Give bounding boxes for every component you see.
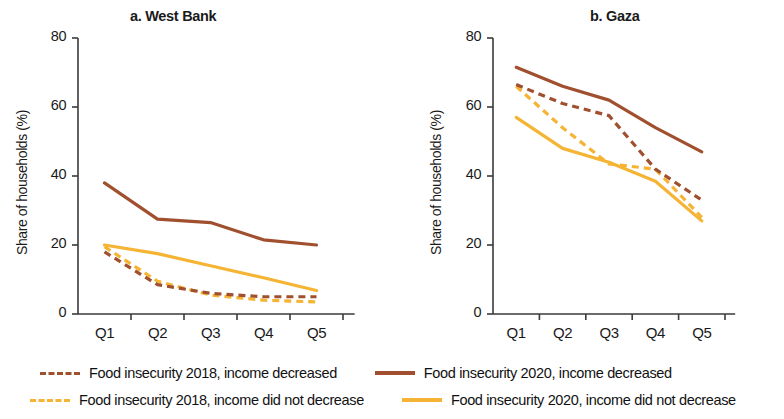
legend-item-2018-not-decreased: Food insecurity 2018, income did not dec… [30,392,364,408]
series-line [105,252,317,297]
series-line [516,117,702,221]
y-tick-label: 80 [445,28,481,44]
legend-swatch-dashed-yellow-icon [30,399,70,402]
x-tick-label: Q3 [585,324,633,341]
series-line [105,247,317,302]
legend-item-2018-decreased: Food insecurity 2018, income decreased [40,365,337,381]
legend-item-2020-not-decreased: Food insecurity 2020, income did not dec… [402,392,736,408]
y-tick-label: 20 [30,235,66,251]
figure-food-insecurity-quintiles: a. West Bank Share of households (%) 020… [0,0,784,419]
legend-swatch-solid-brown-icon [375,371,415,375]
legend-label-2020-decreased: Food insecurity 2020, income decreased [424,365,672,381]
chart-panel-gaza: b. Gaza Share of households (%) 02040608… [420,0,784,352]
y-tick-label: 60 [30,97,66,113]
x-tick-label: Q2 [134,324,182,341]
x-tick-label: Q4 [631,324,679,341]
series-line [105,183,317,245]
x-tick-label: Q1 [492,324,540,341]
legend-label-2020-not-decreased: Food insecurity 2020, income did not dec… [451,392,736,408]
legend-row-decreased: Food insecurity 2018, income decreased F… [40,360,672,386]
x-tick-label: Q5 [293,324,341,341]
x-tick-label: Q3 [187,324,235,341]
y-tick-label: 20 [445,235,481,251]
x-tick-label: Q2 [539,324,587,341]
legend-label-2018-not-decreased: Food insecurity 2018, income did not dec… [79,392,364,408]
y-tick-label: 0 [445,304,481,320]
x-tick-label: Q1 [81,324,129,341]
y-tick-label: 40 [445,166,481,182]
y-tick-label: 60 [445,97,481,113]
legend-label-2018-decreased: Food insecurity 2018, income decreased [89,365,337,381]
chart-legend: Food insecurity 2018, income decreased F… [0,358,784,419]
legend-item-2020-decreased: Food insecurity 2020, income decreased [375,365,672,381]
legend-swatch-solid-yellow-icon [402,398,442,402]
y-tick-label: 40 [30,166,66,182]
y-tick-label: 0 [30,304,66,320]
x-tick-label: Q5 [678,324,726,341]
x-tick-label: Q4 [240,324,288,341]
y-tick-label: 80 [30,28,66,44]
legend-row-not-decreased: Food insecurity 2018, income did not dec… [30,387,736,413]
chart-panel-west-bank: a. West Bank Share of households (%) 020… [0,0,420,352]
legend-swatch-dashed-brown-icon [40,372,80,375]
